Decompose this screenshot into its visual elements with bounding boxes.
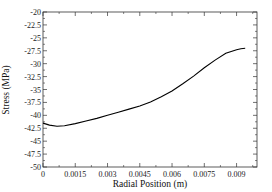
x-tick-label: 0.0075 [193, 170, 215, 179]
y-tick-label: -37.5 [24, 98, 41, 107]
x-axis-title: Radial Position (m) [113, 179, 187, 190]
x-axis: 00.00150.0030.00450.0060.00750.009 [41, 12, 253, 179]
y-axis: -20-22.5-25-27.5-30-32.5-35-37.5-40-42.5… [24, 8, 257, 172]
y-tick-label: -32.5 [24, 73, 41, 82]
y-tick-label: -45 [30, 137, 41, 146]
y-tick-label: -20 [30, 8, 41, 17]
y-tick-label: -30 [30, 60, 41, 69]
y-tick-label: -40 [30, 111, 41, 120]
y-tick-label: -22.5 [24, 21, 41, 30]
x-tick-label: 0.006 [163, 170, 181, 179]
y-tick-label: -25 [30, 34, 41, 43]
y-tick-label: -42.5 [24, 124, 41, 133]
y-tick-label: -27.5 [24, 47, 41, 56]
y-tick-label: -35 [30, 86, 41, 95]
y-axis-title: Stress (MPa) [1, 65, 12, 114]
x-tick-label: 0.0045 [129, 170, 151, 179]
y-tick-label: -50 [30, 163, 41, 172]
x-tick-label: 0 [41, 170, 45, 179]
x-tick-label: 0.0015 [64, 170, 86, 179]
x-tick-label: 0.009 [228, 170, 246, 179]
stress-chart: -20-22.5-25-27.5-30-32.5-35-37.5-40-42.5… [0, 0, 272, 192]
stress-line [43, 48, 245, 126]
y-tick-label: -47.5 [24, 150, 41, 159]
plot-frame [43, 12, 257, 167]
x-tick-label: 0.003 [99, 170, 117, 179]
